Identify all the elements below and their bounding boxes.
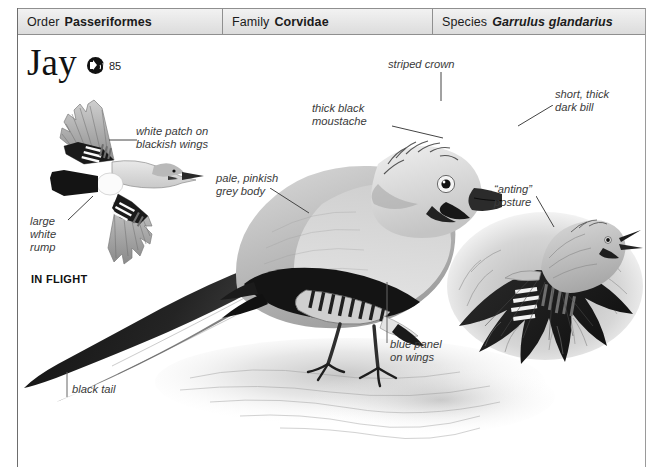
label-short-thick-dark-bill: short, thick dark bill <box>555 88 609 114</box>
family-label: Family <box>232 15 269 29</box>
order-label: Order <box>27 15 59 29</box>
field-guide-page: Order Passeriformes Family Corvidae Spec… <box>0 0 652 475</box>
leader-anting-posture <box>536 196 558 228</box>
taxonomy-cell-species: Species Garrulus glandarius <box>432 9 645 34</box>
speaker-waves-icon <box>97 61 102 71</box>
leader-moustache <box>392 124 444 140</box>
order-value: Passeriformes <box>64 15 151 29</box>
feet <box>308 364 396 386</box>
tail <box>24 266 264 402</box>
taxonomy-cell-family: Family Corvidae <box>222 9 432 34</box>
page-left-rule <box>17 8 18 467</box>
leader-black-tail <box>64 372 70 398</box>
species-label: Species <box>442 15 487 29</box>
species-value: Garrulus glandarius <box>492 15 613 29</box>
leader-blue-panel <box>384 282 390 344</box>
leader-bill <box>518 105 554 127</box>
label-black-tail: black tail <box>72 383 116 396</box>
label-anting-posture: “anting” posture <box>494 183 532 209</box>
page-right-rule <box>645 8 646 467</box>
taxonomy-cell-order: Order Passeriformes <box>18 9 222 34</box>
page-number: 85 <box>109 60 121 72</box>
leader-striped-crown <box>438 72 444 102</box>
label-blue-panel-on-wings: blue panel on wings <box>390 338 442 364</box>
label-thick-black-moustache: thick black moustache <box>312 102 367 128</box>
legs <box>328 324 378 368</box>
family-value: Corvidae <box>274 15 328 29</box>
label-pale-pinkish-grey-body: pale, pinkish grey body <box>216 172 278 198</box>
open-bill <box>619 230 643 250</box>
taxonomy-header: Order Passeriformes Family Corvidae Spec… <box>18 8 645 35</box>
label-striped-crown: striped crown <box>388 58 455 71</box>
leader-body <box>270 188 310 214</box>
